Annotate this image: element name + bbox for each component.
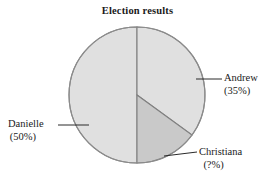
pie-label-andrew: Andrew (35%) xyxy=(224,72,258,97)
pie-label-christiana-name: Christiana xyxy=(199,146,242,157)
pie-label-andrew-value: (35%) xyxy=(224,85,258,98)
pie-label-danielle-name: Danielle xyxy=(8,118,44,129)
pie-label-christiana: Christiana (?%) xyxy=(199,146,242,171)
pie-slice-danielle[interactable] xyxy=(69,27,137,163)
pie-chart-figure: Election results Andrew (35%) Danielle (… xyxy=(0,0,275,188)
pie-label-christiana-value: (?%) xyxy=(199,159,242,172)
pie-label-danielle: Danielle (50%) xyxy=(8,118,44,143)
pie-label-danielle-value: (50%) xyxy=(8,131,44,144)
pie-label-andrew-name: Andrew xyxy=(224,72,258,83)
